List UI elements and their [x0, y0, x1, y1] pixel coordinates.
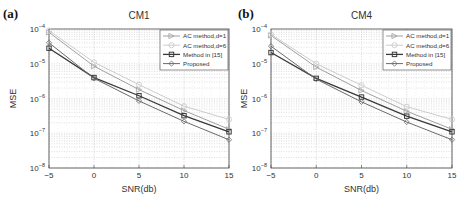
y-tick-label: 10−4 — [252, 23, 267, 34]
x-axis-label: SNR(db) — [344, 184, 379, 194]
y-tick-label: 10−6 — [252, 93, 267, 104]
y-tick-label: 10−6 — [30, 93, 45, 104]
legend-label: AC method,d=6 — [406, 42, 450, 49]
y-axis-label: MSE — [8, 89, 18, 109]
x-tick-label: 0 — [92, 171, 97, 180]
x-tick-label: 10 — [402, 171, 411, 180]
y-tick-label: 10−8 — [252, 162, 267, 173]
x-tick-label: 0 — [314, 171, 319, 180]
chart-title: CM4 — [351, 10, 373, 21]
legend-label: Proposed — [406, 60, 433, 67]
y-tick-label: 10−7 — [252, 127, 267, 138]
y-tick-label: 10−5 — [252, 58, 267, 69]
y-tick-label: 10−4 — [30, 23, 45, 34]
legend-label: Method in [15] — [406, 51, 445, 58]
legend-label: Proposed — [183, 60, 210, 67]
y-tick-label: 10−8 — [30, 162, 45, 173]
x-axis-label: SNR(db) — [121, 184, 156, 194]
x-tick-label: 10 — [180, 171, 189, 180]
chart-title: CM1 — [128, 10, 150, 21]
legend-label: Method in [15] — [183, 51, 222, 58]
x-tick-label: 5 — [359, 171, 364, 180]
y-tick-label: 10−7 — [30, 127, 45, 138]
legend: AC method,d=1AC method,d=6Method in [15]… — [383, 30, 451, 70]
chart-panel-b: (b) CM4−505101510−810−710−610−510−4SNR(d… — [235, 0, 470, 206]
x-tick-label: 15 — [448, 171, 457, 180]
x-tick-label: 5 — [137, 171, 142, 180]
legend-label: AC method,d=1 — [183, 32, 227, 39]
y-tick-label: 10−5 — [30, 58, 45, 69]
x-tick-label: 15 — [225, 171, 234, 180]
legend-label: AC method,d=6 — [183, 42, 227, 49]
chart-plot: CM1−505101510−810−710−610−510−4SNR(db)MS… — [0, 0, 235, 206]
chart-panel-a: (a) CM1−505101510−810−710−610−510−4SNR(d… — [0, 0, 235, 206]
x-tick-label: −5 — [266, 171, 276, 180]
chart-plot: CM4−505101510−810−710−610−510−4SNR(db)MS… — [235, 0, 470, 206]
y-axis-label: MSE — [239, 89, 249, 109]
legend-label: AC method,d=1 — [406, 32, 450, 39]
x-tick-label: −5 — [44, 171, 54, 180]
legend: AC method,d=1AC method,d=6Method in [15]… — [160, 30, 228, 70]
